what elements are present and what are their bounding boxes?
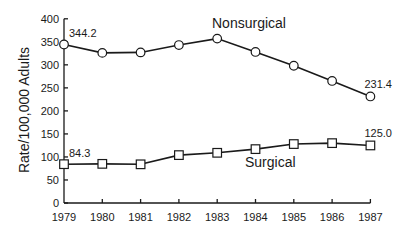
circle-marker xyxy=(136,48,145,57)
y-axis-title: Rate/100,000 Adults xyxy=(16,47,32,173)
y-tick-label: 50 xyxy=(47,174,59,186)
square-marker xyxy=(98,160,107,169)
y-tick-label: 150 xyxy=(41,128,59,140)
square-marker xyxy=(175,151,184,160)
value-annotation: 125.0 xyxy=(364,127,392,139)
x-tick-label: 1982 xyxy=(167,211,191,223)
value-annotation: 344.2 xyxy=(69,27,97,39)
square-marker xyxy=(136,160,145,169)
y-tick-label: 250 xyxy=(41,82,59,94)
y-tick-label: 100 xyxy=(41,151,59,163)
series: 344.2231.484.3125.0 xyxy=(60,27,392,168)
square-marker xyxy=(251,145,260,154)
square-marker xyxy=(60,160,69,169)
x-tick-label: 1983 xyxy=(205,211,229,223)
circle-marker xyxy=(328,77,337,86)
series-label-surgical: Surgical xyxy=(245,154,296,170)
x-tick-label: 1987 xyxy=(358,211,382,223)
circle-marker xyxy=(60,40,69,49)
series-line xyxy=(64,39,370,97)
y-tick-label: 300 xyxy=(41,59,59,71)
circle-marker xyxy=(98,49,107,58)
axes xyxy=(64,19,370,203)
series-surgical: 84.3125.0 xyxy=(60,127,392,168)
circle-marker xyxy=(251,48,260,57)
value-annotation: 231.4 xyxy=(364,78,392,90)
y-tick-label: 0 xyxy=(53,197,59,209)
square-marker xyxy=(328,139,337,148)
y-tick-label: 400 xyxy=(41,13,59,25)
series-nonsurgical: 344.2231.4 xyxy=(60,27,392,100)
circle-marker xyxy=(290,61,299,70)
circle-marker xyxy=(213,34,222,43)
y-axis-title-group: Rate/100,000 Adults xyxy=(16,47,32,173)
square-marker xyxy=(366,141,375,150)
y-tick-label: 350 xyxy=(41,36,59,48)
x-tick-label: 1984 xyxy=(243,211,267,223)
x-tick-label: 1981 xyxy=(128,211,152,223)
circle-marker xyxy=(366,92,375,101)
x-tick-label: 1986 xyxy=(320,211,344,223)
x-tick-label: 1980 xyxy=(90,211,114,223)
circle-marker xyxy=(175,41,184,50)
square-marker xyxy=(213,149,222,158)
x-tick-label: 1985 xyxy=(282,211,306,223)
x-tick-label: 1979 xyxy=(52,211,76,223)
value-annotation: 84.3 xyxy=(69,147,90,159)
line-chart: Rate/100,000 Adults 05010015020025030035… xyxy=(0,0,410,232)
y-tick-label: 200 xyxy=(41,105,59,117)
square-marker xyxy=(290,140,299,149)
series-label-nonsurgical: Nonsurgical xyxy=(212,15,286,31)
